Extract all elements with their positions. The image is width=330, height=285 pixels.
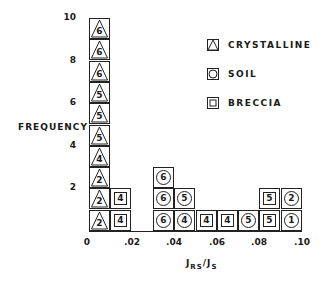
breccia-sample-cell: 4 bbox=[217, 210, 238, 231]
sample-label: 5 bbox=[239, 211, 258, 230]
crystalline-sample-cell: 6 bbox=[89, 61, 110, 82]
x-tick-label: .08 bbox=[247, 237, 271, 247]
soil-sample-cell: 5 bbox=[238, 210, 259, 231]
sample-label: 5 bbox=[175, 189, 194, 208]
sample-label: 6 bbox=[154, 189, 173, 208]
crystalline-sample-cell: 2 bbox=[89, 210, 110, 231]
breccia-sample-cell: 4 bbox=[110, 210, 131, 231]
legend-label: CRYSTALLINE bbox=[228, 40, 311, 50]
y-tick-label: 6 bbox=[62, 97, 76, 107]
sample-label: 6 bbox=[90, 65, 109, 84]
legend-item-soil: SOIL bbox=[207, 67, 257, 81]
soil-sample-cell: 6 bbox=[153, 167, 174, 188]
x-tick-label: .10 bbox=[290, 237, 314, 247]
soil-sample-cell: 2 bbox=[281, 188, 302, 209]
x-tick-label: .06 bbox=[205, 237, 229, 247]
crystalline-sample-cell: 2 bbox=[89, 188, 110, 209]
crystalline-sample-cell: 2 bbox=[89, 167, 110, 188]
crystalline-sample-cell: 5 bbox=[89, 82, 110, 103]
sample-label: 2 bbox=[90, 192, 109, 211]
y-tick-label: 4 bbox=[62, 140, 76, 150]
breccia-sample-cell: 4 bbox=[196, 210, 217, 231]
x-tick-label: .02 bbox=[120, 237, 144, 247]
sample-label: 4 bbox=[218, 211, 237, 230]
sample-label: 6 bbox=[154, 168, 173, 187]
crystalline-sample-cell: 4 bbox=[89, 146, 110, 167]
x-axis-line bbox=[89, 231, 302, 232]
sample-label: 5 bbox=[90, 129, 109, 148]
breccia-sample-cell: 5 bbox=[259, 188, 280, 209]
histogram-chart: 0.02.04.06.08.10246810 22245556664466645… bbox=[0, 0, 330, 285]
soil-sample-cell: 4 bbox=[174, 210, 195, 231]
sample-label: 6 bbox=[90, 22, 109, 41]
x-tick-label: .04 bbox=[162, 237, 186, 247]
y-tick-label: 10 bbox=[62, 12, 76, 22]
legend-item-breccia: BRECCIA bbox=[207, 96, 282, 110]
sample-label: 5 bbox=[260, 211, 279, 230]
triangle-icon bbox=[207, 39, 219, 51]
sample-label: 5 bbox=[90, 107, 109, 126]
sample-label: 6 bbox=[90, 43, 109, 62]
crystalline-sample-cell: 6 bbox=[89, 18, 110, 39]
sample-label: 4 bbox=[197, 211, 216, 230]
sample-label: 5 bbox=[90, 86, 109, 105]
crystalline-sample-cell: 6 bbox=[89, 39, 110, 60]
legend-label: SOIL bbox=[228, 69, 257, 79]
square-icon bbox=[207, 97, 219, 109]
y-tick-label: 8 bbox=[62, 55, 76, 65]
legend-label: BRECCIA bbox=[228, 98, 282, 108]
sample-label: 5 bbox=[260, 189, 279, 208]
soil-sample-cell: 1 bbox=[281, 210, 302, 231]
legend-item-crystalline: CRYSTALLINE bbox=[207, 38, 311, 52]
sample-label: 2 bbox=[282, 189, 301, 208]
sample-label: 4 bbox=[111, 189, 130, 208]
soil-sample-cell: 6 bbox=[153, 188, 174, 209]
sample-label: 1 bbox=[282, 211, 301, 230]
soil-sample-cell: 5 bbox=[174, 188, 195, 209]
sample-label: 2 bbox=[90, 214, 109, 233]
sample-label: 4 bbox=[90, 150, 109, 169]
x-tick-label: 0 bbox=[75, 237, 99, 247]
sample-label: 6 bbox=[154, 211, 173, 230]
sample-label: 2 bbox=[90, 171, 109, 190]
crystalline-sample-cell: 5 bbox=[89, 125, 110, 146]
crystalline-sample-cell: 5 bbox=[89, 103, 110, 124]
sample-label: 4 bbox=[175, 211, 194, 230]
soil-sample-cell: 6 bbox=[153, 210, 174, 231]
sample-label: 4 bbox=[111, 211, 130, 230]
y-axis-label: FREQUENCY bbox=[18, 122, 88, 132]
y-tick-label: 2 bbox=[62, 182, 76, 192]
breccia-sample-cell: 4 bbox=[110, 188, 131, 209]
x-axis-label: JRS/JS bbox=[186, 258, 217, 271]
circle-icon bbox=[207, 68, 219, 80]
breccia-sample-cell: 5 bbox=[259, 210, 280, 231]
